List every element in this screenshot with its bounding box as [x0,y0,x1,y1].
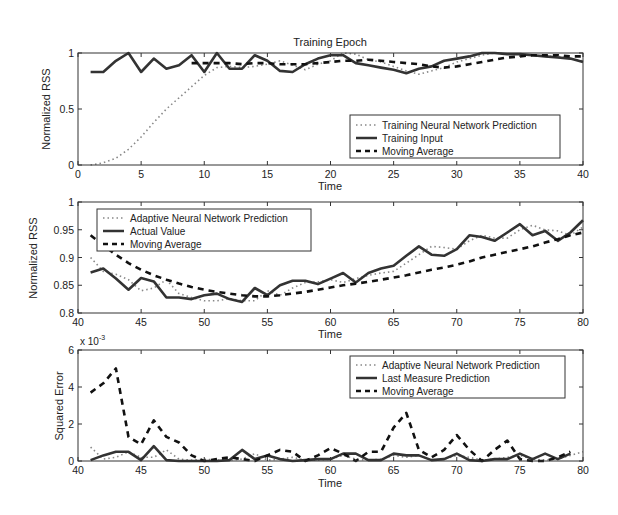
x-tick-label: 65 [388,316,400,328]
y-axis-label: Squared Error [53,371,65,440]
x-tick-label: 75 [514,316,526,328]
y-multiplier-exp: -3 [99,334,105,341]
y-tick-label: 0.95 [54,224,75,236]
x-tick-label: 80 [577,464,589,476]
x-axis-label: Time [318,328,342,340]
x-tick-label: 45 [135,316,147,328]
panel-squared-error: 404550556065707580 0246 x 10-3 Time Squa… [53,334,589,489]
figure: Training Epoch 0510152025303540 00.51 Ti… [0,0,618,515]
x-tick-label: 20 [325,168,337,180]
legend: Adaptive Neural Network Prediction Actua… [97,209,311,251]
y-axis-label: Normalized RSS [27,217,39,298]
y-tick-label: 6 [68,344,74,356]
legend-item: Last Measure Prediction [382,373,490,384]
x-tick-label: 60 [325,464,337,476]
y-tick-label: 4 [68,381,74,393]
panel-training-epoch: 0510152025303540 00.51 Time Normalized R… [40,47,589,192]
y-tick-label: 2 [68,418,74,430]
legend: Training Neural Network Prediction Train… [350,115,560,158]
x-tick-label: 25 [388,168,400,180]
x-tick-label: 65 [388,464,400,476]
x-tick-label: 60 [325,316,337,328]
y-tick-label: 0.5 [59,103,74,115]
legend-item: Moving Average [382,386,454,397]
x-tick-label: 0 [75,168,81,180]
series-line-solid [91,53,583,73]
y-tick-label: 0 [68,455,74,467]
x-tick-label: 45 [135,464,147,476]
x-tick-label: 55 [262,316,274,328]
y-tick-label: 0.85 [54,279,75,291]
x-tick-label: 75 [514,464,526,476]
x-tick-label: 15 [262,168,274,180]
y-tick-label: 0.9 [59,252,74,264]
x-tick-label: 10 [198,168,210,180]
x-tick-label: 50 [198,316,210,328]
y-multiplier: x 10-3 [80,334,105,347]
figure-title: Training Epoch [293,36,367,48]
x-tick-label: 70 [451,464,463,476]
x-tick-label: 50 [198,464,210,476]
x-tick-label: 40 [577,168,589,180]
x-tick-label: 70 [451,316,463,328]
legend-item: Adaptive Neural Network Prediction [130,213,288,224]
x-tick-label: 35 [514,168,526,180]
legend-item: Training Input [382,133,443,144]
x-tick-label: 55 [262,464,274,476]
legend-item: Adaptive Neural Network Prediction [382,360,540,371]
y-axis-label: Normalized RSS [40,68,52,149]
y-tick-label: 0 [68,159,74,171]
x-tick-label: 80 [577,316,589,328]
y-tick-label: 1 [68,196,74,208]
x-tick-label: 30 [451,168,463,180]
legend-item: Moving Average [130,239,202,250]
y-tick-label: 1 [68,47,74,59]
legend-item: Training Neural Network Prediction [382,120,537,131]
y-tick-label: 0.8 [59,307,74,319]
legend-item: Actual Value [130,226,186,237]
x-axis-label: Time [318,477,342,489]
legend-item: Moving Average [382,146,454,157]
x-axis-label: Time [318,180,342,192]
legend: Adaptive Neural Network Prediction Last … [350,356,565,398]
panel-adaptive-rss: 404550556065707580 0.80.850.90.951 Time … [27,196,589,340]
y-multiplier-base: x 10 [80,336,99,347]
x-tick-label: 5 [138,168,144,180]
